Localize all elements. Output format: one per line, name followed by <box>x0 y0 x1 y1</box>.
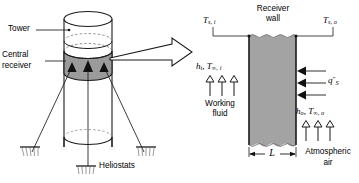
solar-beam-lines <box>32 71 144 166</box>
thickness-arrow-right <box>290 152 296 156</box>
working-fluid-label-line2: fluid <box>195 110 245 119</box>
outer-surface-temp-leader <box>296 27 333 36</box>
outer-convection-label: ho, T∞, o <box>296 107 324 117</box>
receiver-wall-label-line1: Receiver <box>243 5 303 14</box>
solar-flux-arrows <box>297 67 326 100</box>
solar-flux-arrowhead-2 <box>297 79 306 88</box>
wall-slab-fill <box>249 35 296 147</box>
receiver-band-top-back <box>64 44 112 52</box>
atmospheric-air-label-line1: Atmospheric <box>297 148 359 157</box>
tower-assembly <box>20 12 156 175</box>
outer-convection-arrowhead-1 <box>302 121 310 128</box>
outer-convection-arrows <box>302 121 334 142</box>
inner-fluid-temperature-subscript: ∞, i <box>212 64 222 71</box>
thickness-label: L <box>262 148 282 159</box>
solar-flux-arrowhead-3 <box>297 91 306 100</box>
outer-fluid-temperature-subscript: ∞, o <box>313 109 324 116</box>
heliostats-label: Heliostats <box>99 162 135 171</box>
expansion-arrow <box>110 38 192 66</box>
heliostat-right <box>136 147 156 156</box>
expansion-arrow-shape <box>110 38 192 66</box>
outer-surface-temperature-subscript: s, o <box>328 18 337 25</box>
receiver-wall-detail <box>206 27 334 157</box>
inner-convection-arrowhead-2 <box>218 76 226 83</box>
inner-surface-temperature-subscript: s, i <box>208 18 216 25</box>
inner-convection-arrowhead-3 <box>230 76 238 83</box>
outer-surface-temp-dot <box>295 35 298 38</box>
heliostat-center <box>76 166 96 174</box>
tower-label: Tower <box>8 25 30 34</box>
inner-convection-label: hi, T∞, i <box>196 62 221 72</box>
inner-surface-temperature-label: Ts, i <box>203 16 216 26</box>
heliostat-left <box>20 147 40 156</box>
atmospheric-air-label-line2: air <box>297 159 359 168</box>
outer-convection-arrowhead-2 <box>314 121 322 128</box>
receiver-wall-label-line2: wall <box>243 15 303 24</box>
inner-surface-temp-leader <box>213 27 249 36</box>
solar-flux-subscript: S <box>335 79 338 86</box>
working-fluid-label-line1: Working <box>195 100 245 109</box>
thickness-arrow-left <box>249 152 255 156</box>
central-receiver-label-line1: Central <box>2 51 28 60</box>
outer-surface-temperature-label: Ts, o <box>323 16 337 26</box>
solar-flux-label: q″S <box>328 76 339 86</box>
tower-mid-ellipse-front <box>64 41 112 49</box>
inner-convection-arrows <box>206 76 238 97</box>
tower-top-ellipse <box>64 12 112 27</box>
tower-mid-ellipse-back <box>64 34 112 41</box>
tower-leader-dot <box>68 29 71 32</box>
outer-convection-arrowhead-3 <box>326 121 334 128</box>
solar-flux-arrowhead-1 <box>297 67 306 76</box>
inner-convection-arrowhead-1 <box>206 76 214 83</box>
inner-surface-temp-dot <box>248 35 251 38</box>
central-receiver-label-line2: receiver <box>2 62 31 71</box>
